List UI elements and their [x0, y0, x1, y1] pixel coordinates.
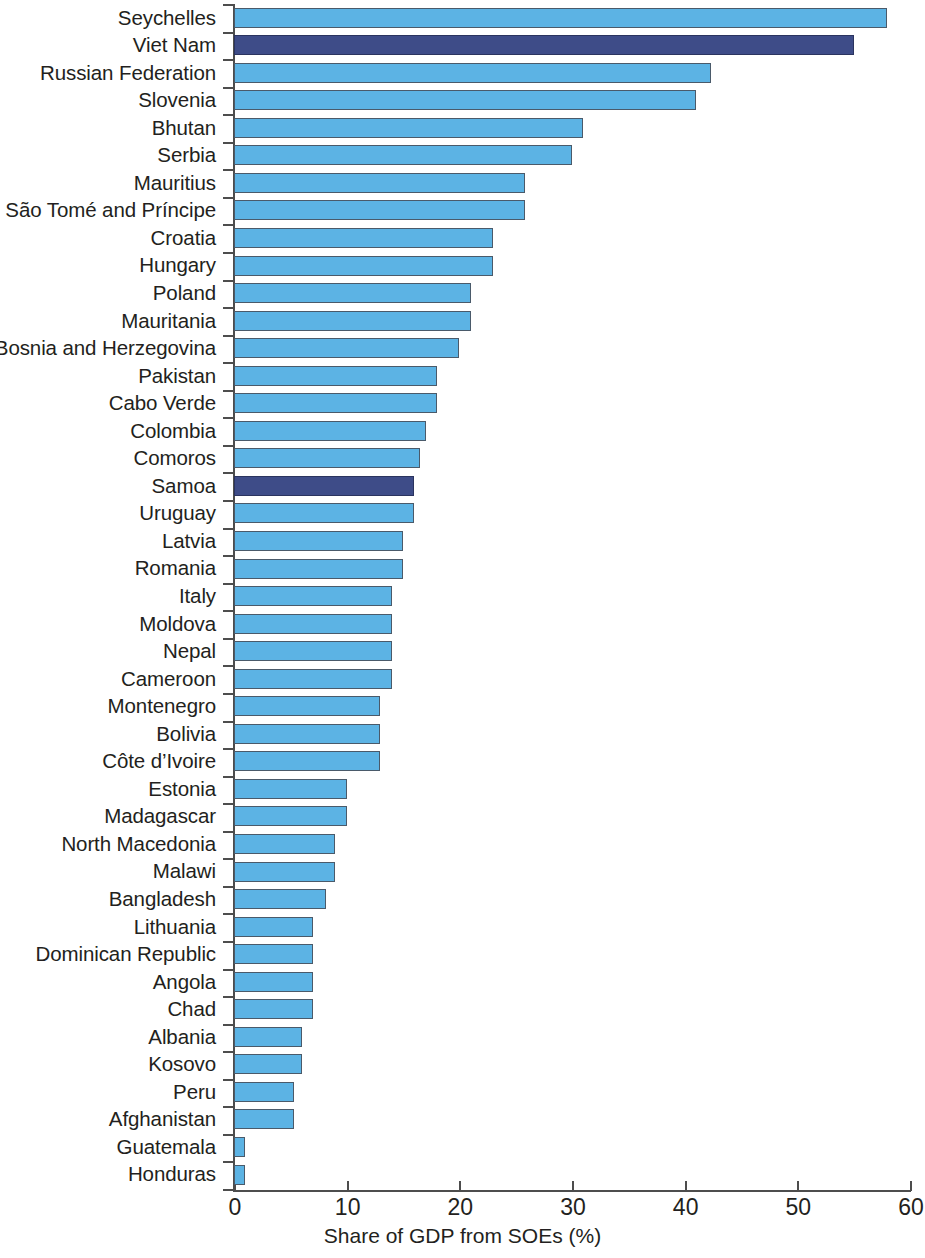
- bar: [234, 1137, 245, 1157]
- y-axis-tick-label-row: Nepal: [0, 638, 222, 666]
- bar: [234, 228, 493, 248]
- y-axis-tick: [223, 307, 234, 309]
- y-axis-tick-label-row: Afghanistan: [0, 1106, 222, 1134]
- bar: [234, 917, 313, 937]
- bar: [234, 118, 583, 138]
- y-axis-tick: [223, 1024, 234, 1026]
- bar: [234, 531, 403, 551]
- bar: [234, 63, 711, 83]
- y-axis-tick-label: Slovenia: [138, 90, 216, 111]
- bar-row: [234, 720, 910, 748]
- plot-area: [234, 4, 910, 1189]
- y-axis-tick-label-row: Slovenia: [0, 87, 222, 115]
- bar: [234, 1054, 302, 1074]
- y-axis-tick-label: Kosovo: [148, 1054, 216, 1075]
- bar-row: [234, 996, 910, 1024]
- y-axis-tick-label-row: Kosovo: [0, 1051, 222, 1079]
- y-axis-tick-label-row: Seychelles: [0, 4, 222, 32]
- y-axis-tick: [223, 1106, 234, 1108]
- bar: [234, 641, 392, 661]
- x-axis-tick-label: 40: [673, 1194, 699, 1221]
- bar: [234, 503, 414, 523]
- y-axis-tick: [223, 969, 234, 971]
- bar: [234, 35, 854, 55]
- bar: [234, 779, 347, 799]
- y-axis-tick-label-row: Moldova: [0, 610, 222, 638]
- y-axis-tick-label-row: Croatia: [0, 224, 222, 252]
- bar: [234, 806, 347, 826]
- y-axis-tick-label-row: Hungary: [0, 252, 222, 280]
- y-axis-tick-label: Dominican Republic: [35, 944, 216, 965]
- bar-row: [234, 307, 910, 335]
- y-axis-tick-label-row: Cameroon: [0, 665, 222, 693]
- bar: [234, 90, 696, 110]
- y-axis-tick: [223, 142, 234, 144]
- bar: [234, 8, 887, 28]
- x-axis-tick-label: 20: [448, 1194, 474, 1221]
- y-axis-tick-label: Italy: [179, 586, 216, 607]
- bar: [234, 1109, 294, 1129]
- bar-row: [234, 417, 910, 445]
- bar: [234, 283, 471, 303]
- bar-row: [234, 32, 910, 60]
- x-axis-tick-label: 50: [786, 1194, 812, 1221]
- y-axis-tick-label-row: Guatemala: [0, 1133, 222, 1161]
- y-axis-tick-label-row: Serbia: [0, 142, 222, 170]
- y-axis-tick-label-row: Mauritius: [0, 169, 222, 197]
- y-axis-tick: [223, 528, 234, 530]
- bar-row: [234, 472, 910, 500]
- bar-row: [234, 362, 910, 390]
- bar: [234, 421, 426, 441]
- bar: [234, 999, 313, 1019]
- bar-row: [234, 610, 910, 638]
- y-axis-tick-label: Russian Federation: [40, 63, 216, 84]
- y-axis-tick-label-row: Russian Federation: [0, 59, 222, 87]
- y-axis-tick: [223, 87, 234, 89]
- y-axis-tick: [223, 913, 234, 915]
- y-axis-tick: [223, 941, 234, 943]
- y-axis-tick-label: Seychelles: [118, 8, 216, 29]
- y-axis-tick: [223, 1051, 234, 1053]
- y-axis-tick: [223, 776, 234, 778]
- bar-row: [234, 803, 910, 831]
- y-axis-tick-label: Malawi: [153, 861, 216, 882]
- x-axis-title: Share of GDP from SOEs (%): [0, 1224, 925, 1248]
- bar-row: [234, 142, 910, 170]
- y-axis-tick-label: Mauritius: [134, 173, 216, 194]
- y-axis-tick-label-row: Bosnia and Herzegovina: [0, 335, 222, 363]
- y-axis-tick-label-row: Madagascar: [0, 803, 222, 831]
- bar: [234, 614, 392, 634]
- y-axis-tick: [223, 748, 234, 750]
- y-axis-tick-label: Mauritania: [121, 311, 216, 332]
- bar: [234, 972, 313, 992]
- y-axis-tick-label-row: Estonia: [0, 775, 222, 803]
- y-axis-tick-label-row: Bolivia: [0, 720, 222, 748]
- bar-row: [234, 335, 910, 363]
- bar: [234, 1082, 294, 1102]
- bar-row: [234, 1051, 910, 1079]
- bar-row: [234, 1133, 910, 1161]
- bar-row: [234, 582, 910, 610]
- y-axis-tick-label: Uruguay: [139, 503, 216, 524]
- y-axis-tick: [223, 114, 234, 116]
- bar: [234, 1165, 245, 1185]
- y-axis-tick-label-row: Pakistan: [0, 362, 222, 390]
- y-axis-tick: [223, 665, 234, 667]
- bar-row: [234, 941, 910, 969]
- bar-row: [234, 775, 910, 803]
- y-axis-tick-label-row: Lithuania: [0, 913, 222, 941]
- y-axis-tick: [223, 1079, 234, 1081]
- y-axis-tick-label-row: Bangladesh: [0, 886, 222, 914]
- y-axis-tick: [223, 335, 234, 337]
- y-axis-tick: [223, 362, 234, 364]
- y-axis-tick: [223, 886, 234, 888]
- bar-row: [234, 527, 910, 555]
- y-axis-tick: [223, 390, 234, 392]
- y-axis-tick-label: Latvia: [162, 531, 216, 552]
- y-axis-tick: [223, 693, 234, 695]
- y-axis-tick: [223, 500, 234, 502]
- bar: [234, 724, 380, 744]
- y-axis-tick-label: Lithuania: [134, 917, 216, 938]
- bar-chart: SeychellesViet NamRussian FederationSlov…: [0, 0, 925, 1258]
- y-axis-tick-label: Moldova: [139, 614, 216, 635]
